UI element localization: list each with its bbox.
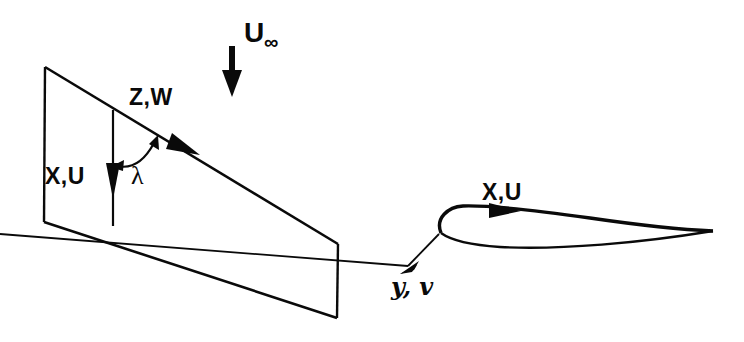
airfoil-section bbox=[440, 206, 713, 248]
airfoil-chordwise-axis-label: X,U bbox=[482, 179, 522, 205]
airfoil-lower-surface bbox=[441, 231, 713, 248]
leading-edge-direction-arrow bbox=[166, 133, 200, 155]
wing-chordwise-axis-label: X,U bbox=[45, 163, 85, 189]
airfoil-upper-surface bbox=[440, 206, 713, 233]
technical-diagram-canvas: U ∞ Z,W X,U λ X,U y, v bbox=[0, 0, 744, 342]
swept-wing-planform bbox=[44, 67, 338, 318]
freestream-label-subscript: ∞ bbox=[264, 31, 279, 53]
freestream-label-symbol: U bbox=[244, 17, 265, 48]
airfoil-normal-arrow bbox=[0, 234, 439, 274]
sweep-angle-label: λ bbox=[131, 161, 144, 190]
freestream-velocity-arrow bbox=[222, 46, 242, 97]
wing-trailing-edge bbox=[44, 222, 337, 318]
figure-root: U ∞ Z,W X,U λ X,U y, v bbox=[0, 0, 744, 342]
freestream-label: U ∞ bbox=[244, 17, 279, 53]
wing-root-chord-edge bbox=[44, 67, 45, 222]
wing-tip-edge bbox=[337, 244, 338, 318]
airfoil-chordwise-arrow bbox=[489, 203, 521, 218]
wing-leading-edge bbox=[45, 67, 338, 244]
airfoil-normal-axis-label: y, v bbox=[390, 272, 434, 301]
spanwise-axis-label: Z,W bbox=[129, 84, 173, 110]
